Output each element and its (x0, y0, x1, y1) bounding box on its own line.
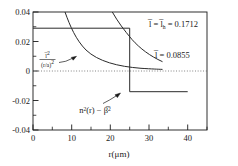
y-tick-label-4: -0.04 (12, 125, 30, 135)
label-lbar: l̅ = 0.0855 (153, 50, 190, 60)
y-tick-label-3: -0.02 (12, 96, 30, 106)
figure-container: 0.04 0.02 0 -0.02 -0.04 0 10 20 30 40 r(… (0, 0, 238, 166)
plot-svg: 0.04 0.02 0 -0.02 -0.04 0 10 20 30 40 r(… (0, 0, 238, 166)
label-lbar-h: l̅ = l̅h = 0.1712 (147, 19, 198, 30)
x-axis-label: r(μm) (109, 149, 130, 159)
y-tick-label-1: 0.02 (15, 37, 30, 47)
x-tick-label-2: 20 (106, 133, 115, 143)
y-tick-label-2: 0 (26, 66, 30, 76)
x-tick-label-0: 0 (31, 133, 35, 143)
x-tick-label-1: 10 (67, 133, 76, 143)
y-tick-label-0: 0.04 (15, 7, 31, 17)
x-tick-label-3: 30 (145, 133, 154, 143)
x-tick-label-4: 40 (183, 133, 192, 143)
